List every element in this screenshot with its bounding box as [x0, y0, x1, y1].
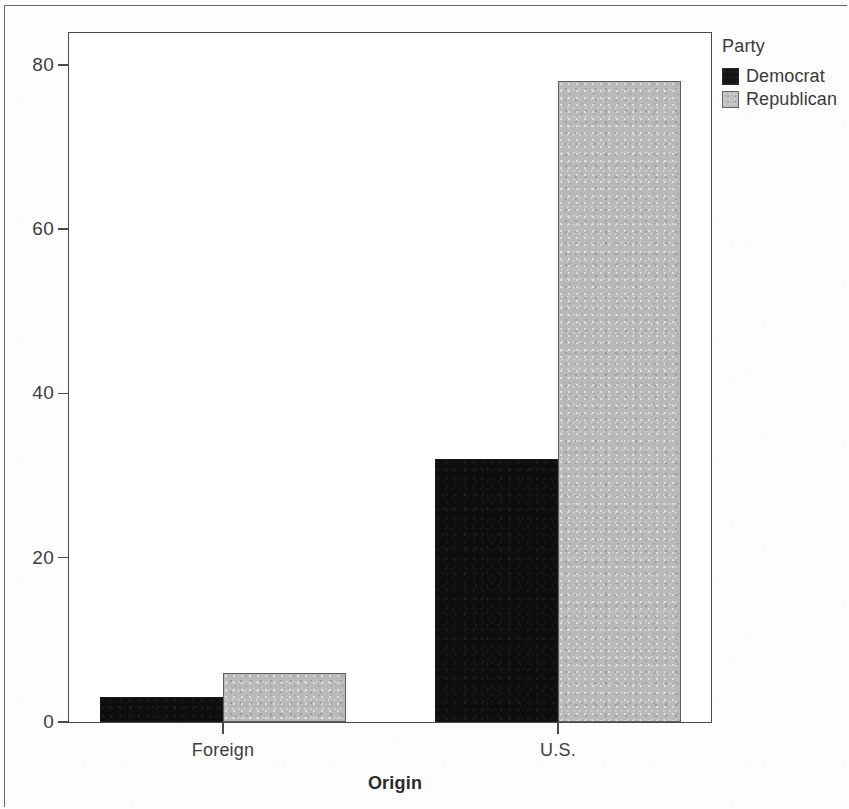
- legend-items: DemocratRepublican: [722, 65, 847, 111]
- x-tick-label: U.S.: [540, 740, 576, 761]
- y-tick-mark: [58, 228, 68, 229]
- bar-us-democrat: [435, 459, 558, 722]
- x-tick-mark: [557, 723, 558, 734]
- y-tick-label: 40: [32, 382, 54, 404]
- legend-item-label: Democrat: [746, 66, 825, 87]
- legend-swatch-icon: [722, 91, 739, 108]
- y-tick-mark: [58, 393, 68, 394]
- x-tick-mark: [222, 723, 223, 734]
- x-axis-title: Origin: [0, 773, 790, 794]
- legend-item-democrat: Democrat: [722, 65, 847, 88]
- plot-area-right-border: [711, 32, 712, 723]
- figure-frame-left-border: [4, 5, 5, 807]
- bar-foreign-republican: [223, 673, 346, 722]
- figure-frame-top-border: [4, 5, 847, 6]
- y-tick-mark: [58, 557, 68, 558]
- y-tick-label: 80: [32, 54, 54, 76]
- bar-foreign-democrat: [100, 697, 223, 722]
- legend-title: Party: [722, 36, 847, 57]
- chart-legend: Party DemocratRepublican: [722, 36, 847, 111]
- legend-swatch-icon: [722, 68, 739, 85]
- legend-item-label: Republican: [746, 89, 837, 110]
- y-tick-mark: [58, 721, 68, 722]
- y-tick-mark: [58, 64, 68, 65]
- bar-us-republican: [558, 81, 681, 722]
- x-tick-label: Foreign: [192, 740, 254, 761]
- legend-item-republican: Republican: [722, 88, 847, 111]
- y-tick-label: 60: [32, 218, 54, 240]
- y-tick-label: 0: [43, 711, 54, 733]
- y-tick-label: 20: [32, 547, 54, 569]
